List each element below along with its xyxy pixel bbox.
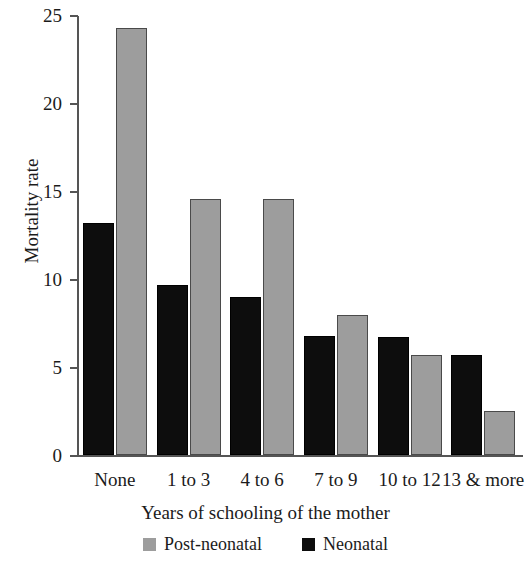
bar-neonatal-10-to-12	[378, 337, 409, 455]
bar-post-neonatal-1-to-3	[190, 199, 221, 455]
bar-post-neonatal-7-to-9	[337, 315, 368, 456]
y-tick-label-25: 25	[16, 6, 62, 25]
legend-swatch-icon	[143, 538, 156, 551]
bar-post-neonatal-10-to-12	[411, 355, 442, 455]
x-axis-title: Years of schooling of the mother	[0, 502, 531, 524]
chart-legend: Post-neonatalNeonatal	[0, 534, 531, 555]
chart-title-clipped	[110, 0, 440, 3]
y-tick-label-10: 10	[16, 270, 62, 289]
y-tick-label-5: 5	[16, 358, 62, 377]
bar-neonatal-13-more	[451, 355, 482, 455]
y-tick-label-20: 20	[16, 94, 62, 113]
legend-swatch-icon	[302, 538, 315, 551]
plot-area	[78, 16, 520, 455]
y-tick-label-group: 25 20 15 10 5 0	[8, 0, 62, 564]
bar-chart-figure: Mortality rate 25 20 15 10 5 0 None1 to …	[0, 0, 531, 564]
bar-neonatal-1-to-3	[157, 285, 188, 455]
legend-entry-post-neonatal: Post-neonatal	[143, 534, 262, 555]
bar-neonatal-none	[83, 223, 114, 455]
legend-label: Neonatal	[323, 534, 388, 555]
bar-post-neonatal-none	[116, 28, 147, 455]
x-tick-label-13-more: 13 & more	[438, 470, 528, 491]
y-tick-label-15: 15	[16, 182, 62, 201]
bar-neonatal-4-to-6	[230, 297, 261, 455]
bar-neonatal-7-to-9	[304, 336, 335, 455]
y-tick-label-0: 0	[16, 446, 62, 465]
legend-label: Post-neonatal	[164, 534, 262, 555]
legend-entry-neonatal: Neonatal	[302, 534, 388, 555]
bar-post-neonatal-13-more	[484, 411, 515, 455]
x-tick-label-group: None1 to 34 to 67 to 910 to 1213 & more	[78, 470, 520, 496]
bar-post-neonatal-4-to-6	[263, 199, 294, 455]
